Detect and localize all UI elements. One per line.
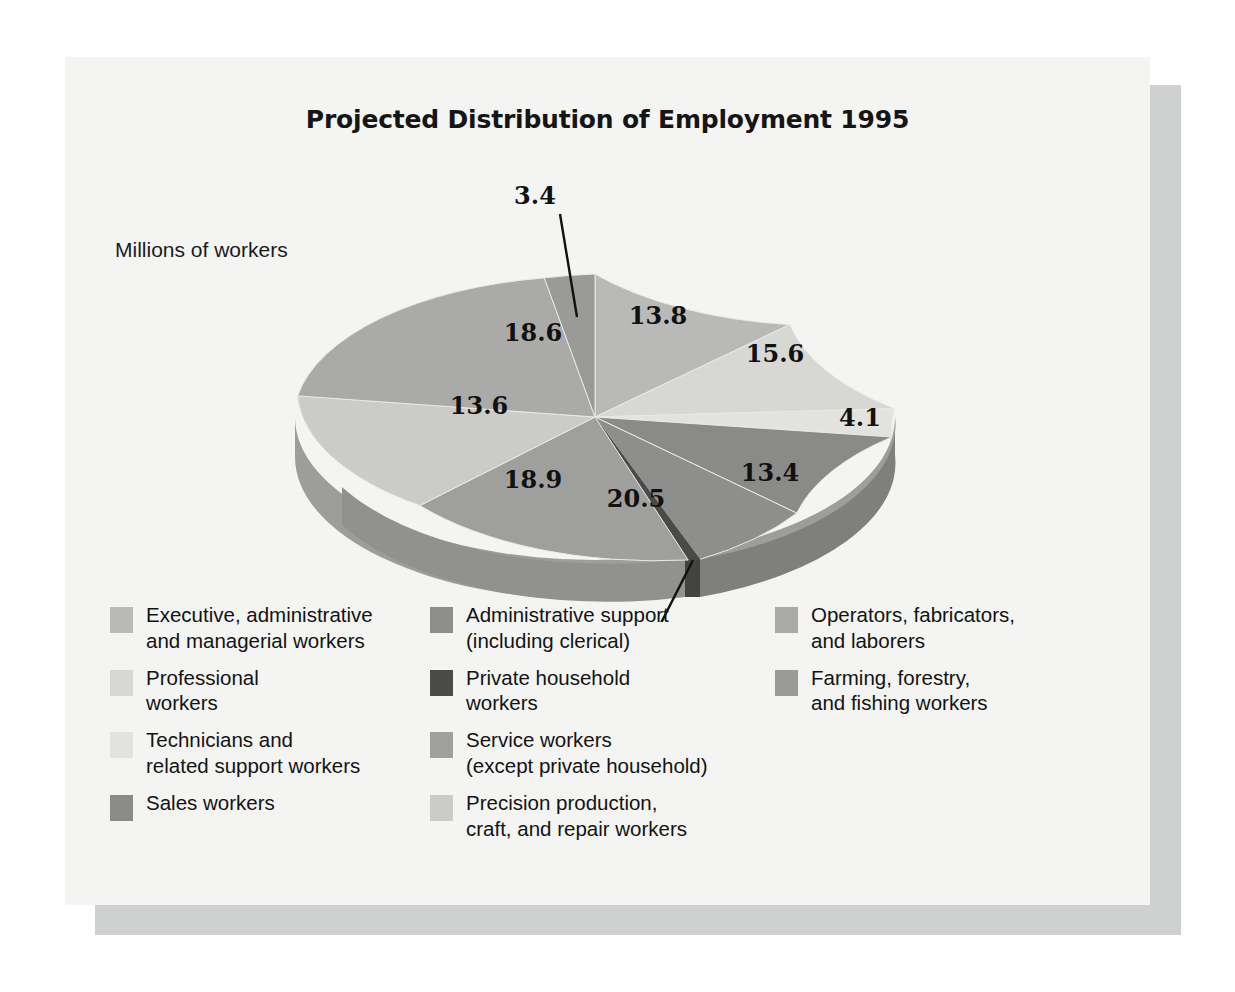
value-label-farming: 3.4 (514, 182, 556, 210)
legend-column-3: Operators, fabricators, and laborers Far… (775, 602, 1105, 892)
card-shadow-right (1150, 85, 1181, 935)
legend-swatch-private-household (430, 670, 453, 696)
value-label-technicians: 4.1 (839, 403, 881, 432)
legend-item-service[interactable]: Service workers (except private househol… (430, 727, 775, 779)
legend-item-professional[interactable]: Professional workers (110, 665, 430, 717)
value-label-precision: 13.6 (450, 391, 508, 420)
pie-chart-svg: 3.4 13.8 15.6 4.1 13.4 20.5 .8 18.9 13.6… (245, 182, 945, 622)
legend-label-operators: Operators, fabricators, and laborers (811, 602, 1015, 654)
value-label-operators: 18.6 (504, 318, 562, 347)
page-title: Projected Distribution of Employment 199… (65, 105, 1150, 134)
pie-chart: 3.4 13.8 15.6 4.1 13.4 20.5 .8 18.9 13.6… (245, 182, 945, 622)
page-root: Projected Distribution of Employment 199… (0, 0, 1235, 992)
legend-item-technicians[interactable]: Technicians and related support workers (110, 727, 430, 779)
legend-item-farming[interactable]: Farming, forestry, and fishing workers (775, 665, 1105, 717)
legend-label-professional: Professional workers (146, 665, 259, 717)
legend-label-executive: Executive, administrative and managerial… (146, 602, 373, 654)
legend-item-sales[interactable]: Sales workers (110, 790, 430, 821)
legend-label-sales: Sales workers (146, 790, 275, 816)
card-shadow-bottom (95, 905, 1181, 935)
legend-column-1: Executive, administrative and managerial… (110, 602, 430, 892)
legend-label-admin-support: Administrative support (including cleric… (466, 602, 669, 654)
slice-operators (298, 278, 595, 417)
value-label-service: 18.9 (504, 465, 562, 494)
legend-item-admin-support[interactable]: Administrative support (including cleric… (430, 602, 775, 654)
value-label-sales: 13.4 (741, 458, 799, 487)
legend-label-farming: Farming, forestry, and fishing workers (811, 665, 988, 717)
chart-legend: Executive, administrative and managerial… (110, 602, 1120, 892)
legend-item-operators[interactable]: Operators, fabricators, and laborers (775, 602, 1105, 654)
value-label-professional: 15.6 (746, 339, 804, 368)
legend-column-2: Administrative support (including cleric… (430, 602, 775, 892)
legend-item-precision[interactable]: Precision production, craft, and repair … (430, 790, 775, 842)
legend-swatch-professional (110, 670, 133, 696)
legend-swatch-precision (430, 795, 453, 821)
legend-label-precision: Precision production, craft, and repair … (466, 790, 687, 842)
legend-label-technicians: Technicians and related support workers (146, 727, 360, 779)
value-label-admin-support: 20.5 (607, 484, 665, 513)
legend-swatch-farming (775, 670, 798, 696)
legend-label-service: Service workers (except private househol… (466, 727, 708, 779)
legend-swatch-service (430, 732, 453, 758)
legend-swatch-admin-support (430, 607, 453, 633)
value-label-executive: 13.8 (629, 301, 687, 330)
legend-label-private-household: Private household workers (466, 665, 630, 717)
legend-swatch-technicians (110, 732, 133, 758)
legend-item-private-household[interactable]: Private household workers (430, 665, 775, 717)
chart-card: Projected Distribution of Employment 199… (65, 57, 1150, 905)
legend-swatch-sales (110, 795, 133, 821)
legend-swatch-operators (775, 607, 798, 633)
legend-swatch-executive (110, 607, 133, 633)
legend-item-executive[interactable]: Executive, administrative and managerial… (110, 602, 430, 654)
